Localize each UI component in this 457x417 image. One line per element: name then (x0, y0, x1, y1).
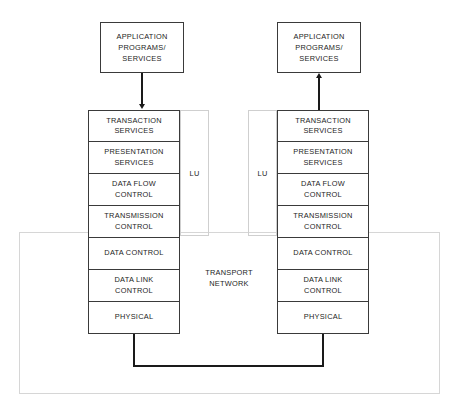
left-layer-5-line-2: CONTROL (115, 286, 154, 297)
transport-network-region (19, 232, 440, 394)
left-layer-3-line-1: TRANSMISSION (104, 211, 163, 222)
left-layer-physical: PHYSICAL (88, 302, 180, 334)
left-layer-presentation-services: PRESENTATION SERVICES (88, 142, 180, 174)
right-app-line-3: SERVICES (293, 53, 344, 64)
transport-network-label-line-1: TRANSPORT (188, 268, 270, 279)
left-layer-2-line-2: CONTROL (112, 190, 156, 201)
connector-left-vertical (133, 334, 135, 367)
right-layer-data-link-control: DATA LINK CONTROL (277, 270, 369, 302)
transport-network-label: TRANSPORT NETWORK (188, 268, 270, 289)
left-layer-5-line-1: DATA LINK (115, 275, 154, 286)
right-arrow-up-icon (316, 73, 322, 78)
right-layer-2-line-2: CONTROL (301, 190, 345, 201)
left-layer-data-link-control: DATA LINK CONTROL (88, 270, 180, 302)
right-lu-label: LU (257, 169, 267, 178)
right-layer-data-control: DATA CONTROL (277, 238, 369, 270)
right-layer-1-line-2: SERVICES (293, 158, 352, 169)
right-layer-data-flow-control: DATA FLOW CONTROL (277, 174, 369, 206)
right-layer-6-line-1: PHYSICAL (304, 312, 343, 323)
left-lu-region: LU (180, 110, 209, 236)
right-arrow-shaft (318, 78, 320, 110)
left-layer-1-line-2: SERVICES (104, 158, 163, 169)
right-app-line-2: PROGRAMS/ (293, 42, 344, 53)
right-layer-0-line-1: TRANSACTION (295, 116, 351, 127)
left-layer-transaction-services: TRANSACTION SERVICES (88, 110, 180, 142)
right-layer-transmission-control: TRANSMISSION CONTROL (277, 206, 369, 238)
left-arrow-shaft (141, 73, 143, 105)
right-lu-region: LU (248, 110, 277, 236)
left-app-line-3: SERVICES (116, 53, 167, 64)
right-app-line-1: APPLICATION (293, 31, 344, 42)
left-layer-data-flow-control: DATA FLOW CONTROL (88, 174, 180, 206)
right-layer-5-line-1: DATA LINK (304, 275, 343, 286)
right-layer-presentation-services: PRESENTATION SERVICES (277, 142, 369, 174)
left-application-programs-box: APPLICATION PROGRAMS/ SERVICES (100, 22, 184, 73)
transport-network-label-line-2: NETWORK (188, 279, 270, 290)
connector-right-vertical (322, 334, 324, 367)
left-layer-4-line-1: DATA CONTROL (104, 248, 163, 259)
left-app-line-1: APPLICATION (116, 31, 167, 42)
left-layer-0-line-1: TRANSACTION (106, 116, 162, 127)
left-lu-label: LU (189, 169, 199, 178)
left-layer-3-line-2: CONTROL (104, 222, 163, 233)
right-layer-transaction-services: TRANSACTION SERVICES (277, 110, 369, 142)
right-layer-2-line-1: DATA FLOW (301, 179, 345, 190)
left-arrow-down-icon (139, 104, 145, 109)
left-app-line-2: PROGRAMS/ (116, 42, 167, 53)
left-layer-2-line-1: DATA FLOW (112, 179, 156, 190)
left-layer-6-line-1: PHYSICAL (115, 312, 154, 323)
left-layer-transmission-control: TRANSMISSION CONTROL (88, 206, 180, 238)
left-layer-0-line-2: SERVICES (106, 126, 162, 137)
right-layer-3-line-1: TRANSMISSION (293, 211, 352, 222)
diagram-canvas: TRANSPORT NETWORK LU LU APPLICATION PROG… (0, 0, 457, 417)
right-layer-4-line-1: DATA CONTROL (293, 248, 352, 259)
right-layer-5-line-2: CONTROL (304, 286, 343, 297)
right-layer-physical: PHYSICAL (277, 302, 369, 334)
right-layer-3-line-2: CONTROL (293, 222, 352, 233)
right-layer-0-line-2: SERVICES (295, 126, 351, 137)
left-layer-1-line-1: PRESENTATION (104, 147, 163, 158)
connector-horizontal (133, 365, 324, 367)
right-application-programs-box: APPLICATION PROGRAMS/ SERVICES (277, 22, 361, 73)
right-layer-1-line-1: PRESENTATION (293, 147, 352, 158)
left-layer-data-control: DATA CONTROL (88, 238, 180, 270)
